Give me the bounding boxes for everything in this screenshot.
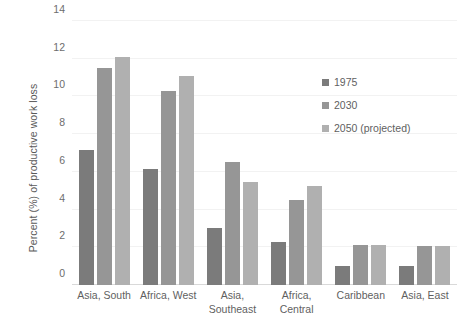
- x-axis-label: Caribbean: [329, 289, 393, 316]
- bar-groups: [72, 21, 457, 285]
- bar-group: [265, 21, 329, 285]
- bar-group: [72, 21, 136, 285]
- x-axis-labels: Asia, SouthAfrica, WestAsia, SoutheastAf…: [72, 289, 457, 316]
- bar: [271, 242, 286, 285]
- bar: [143, 169, 158, 285]
- bar: [417, 246, 432, 285]
- x-axis-label: Asia, East: [393, 289, 457, 316]
- legend-swatch-icon: [322, 102, 329, 109]
- bar: [207, 228, 222, 285]
- bar-group: [200, 21, 264, 285]
- bar: [335, 266, 350, 285]
- y-axis-tick-label: 4: [59, 192, 65, 204]
- legend: 197520302050 (projected): [322, 76, 410, 134]
- y-axis-tick-label: 0: [59, 267, 65, 279]
- bar: [307, 186, 322, 285]
- bar: [371, 245, 386, 285]
- legend-swatch-icon: [322, 125, 329, 132]
- y-axis-tick-label: 12: [53, 41, 65, 53]
- bar: [289, 200, 304, 285]
- bar-group: [329, 21, 393, 285]
- bar: [225, 162, 240, 286]
- bar: [115, 57, 130, 285]
- legend-item[interactable]: 1975: [322, 76, 410, 88]
- bar: [353, 245, 368, 285]
- x-axis-label: Asia, South: [72, 289, 136, 316]
- y-axis-tick-label: 8: [59, 116, 65, 128]
- y-axis-tick-label: 6: [59, 154, 65, 166]
- legend-label: 1975: [334, 76, 357, 88]
- bar: [435, 246, 450, 285]
- y-axis-tick-label: 10: [53, 78, 65, 90]
- bar: [243, 182, 258, 285]
- bar: [399, 266, 414, 285]
- bar: [179, 76, 194, 285]
- bar-group: [393, 21, 457, 285]
- bar-chart: Percent (%) of productive work loss 0246…: [0, 0, 470, 336]
- bar: [79, 150, 94, 285]
- y-axis-title: Percent (%) of productive work loss: [22, 0, 44, 336]
- x-axis-label: Africa, West: [136, 289, 200, 316]
- legend-label: 2050 (projected): [334, 122, 410, 134]
- bar: [97, 68, 112, 285]
- legend-swatch-icon: [322, 79, 329, 86]
- y-axis-tick-label: 2: [59, 229, 65, 241]
- legend-label: 2030: [334, 99, 357, 111]
- x-axis-label: Africa, Central: [265, 289, 329, 316]
- bar: [161, 91, 176, 285]
- bar-group: [136, 21, 200, 285]
- plot-area: 02468101214: [72, 21, 457, 285]
- legend-item[interactable]: 2050 (projected): [322, 122, 410, 134]
- y-axis-tick-label: 14: [53, 3, 65, 15]
- x-axis-label: Asia, Southeast: [200, 289, 264, 316]
- legend-item[interactable]: 2030: [322, 99, 410, 111]
